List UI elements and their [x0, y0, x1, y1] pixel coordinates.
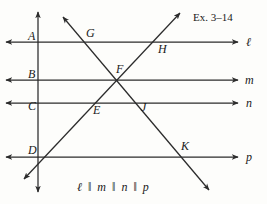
point-label-e: E	[93, 104, 100, 116]
geometry-figure: Ex. 3–14 ℓ m n p A G H B F C E J D K ℓ ‖…	[0, 0, 267, 204]
line-label-l: ℓ	[246, 36, 251, 48]
ascending-transversal	[24, 13, 180, 179]
line-label-p: p	[246, 151, 252, 163]
point-label-a: A	[28, 30, 35, 42]
line-label-m: m	[245, 74, 254, 86]
point-label-h: H	[158, 43, 167, 55]
exercise-caption: Ex. 3–14	[193, 12, 233, 23]
point-label-d: D	[28, 144, 37, 156]
point-label-k: K	[181, 140, 189, 152]
point-label-f: F	[116, 63, 123, 75]
point-label-c: C	[28, 100, 36, 112]
point-label-j: J	[141, 101, 146, 113]
figure-canvas	[0, 0, 267, 204]
point-label-b: B	[28, 68, 35, 80]
parallel-caption: ℓ ‖ m ‖ n ‖ p	[77, 181, 150, 193]
line-label-n: n	[246, 97, 252, 109]
point-label-g: G	[86, 27, 95, 39]
